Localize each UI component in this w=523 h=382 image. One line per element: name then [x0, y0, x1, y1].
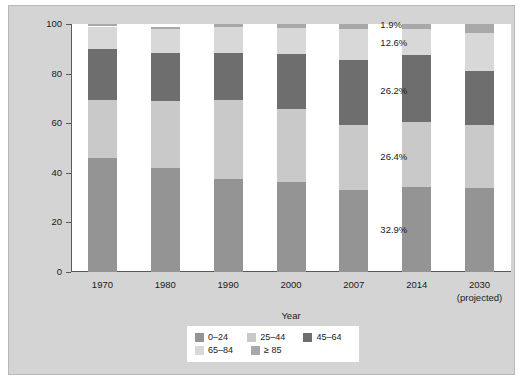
bar-segment-1990-25-44[interactable] — [214, 100, 243, 180]
legend-item-65-84[interactable]: 65–84 — [195, 345, 251, 356]
bar-segment-2007-25-44[interactable] — [339, 125, 368, 190]
bar-segment-1970-0-24[interactable] — [88, 158, 117, 272]
bar-stack — [214, 24, 243, 272]
legend-label-0-24: 0–24 — [208, 332, 228, 343]
x-tick-label-2030: 2030(projected) — [445, 278, 515, 304]
bar-stack — [151, 24, 180, 272]
legend-label-45-64: 45–64 — [316, 332, 341, 343]
bar-segment-1970-25-44[interactable] — [88, 100, 117, 158]
bar-segment-2000-65-84[interactable] — [277, 28, 306, 54]
bar-column-1980[interactable] — [151, 24, 180, 272]
y-tick-label-20: 20 — [51, 215, 62, 228]
x-tick-label-2014: 2014 — [382, 278, 452, 291]
bar-stack — [277, 24, 306, 272]
bar-segment-2030-0-24[interactable] — [465, 188, 494, 272]
chart-legend: 0–24 25–44 45–64 65–84 ≥ 85 — [187, 326, 359, 362]
x-tick-label-1970: 1970 — [67, 278, 137, 291]
annotation-26-2pct: 26.2% — [380, 85, 407, 96]
x-tick-sublabel-2030: (projected) — [445, 291, 515, 304]
bar-segment-1990--85[interactable] — [214, 24, 243, 27]
bar-segment-2007-45-64[interactable] — [339, 60, 368, 125]
bar-stack — [465, 24, 494, 272]
bar-column-1970[interactable] — [88, 24, 117, 272]
bar-column-2000[interactable] — [277, 24, 306, 272]
bar-segment-2000--85[interactable] — [277, 24, 306, 28]
legend-row-2: 65–84 ≥ 85 — [195, 344, 352, 357]
legend-item-25-44[interactable]: 25–44 — [247, 332, 303, 343]
bar-column-1990[interactable] — [214, 24, 243, 272]
bar-segment-2030-45-64[interactable] — [465, 71, 494, 125]
legend-swatch-icon-45-64 — [303, 333, 312, 342]
bar-segment-2030-25-44[interactable] — [465, 125, 494, 187]
annotation-26-4pct: 26.4% — [380, 151, 407, 162]
chart-screenshot: Percentage of total population 020406080… — [0, 0, 523, 382]
bar-segment-2007--85[interactable] — [339, 24, 368, 29]
legend-swatch-icon-65-84 — [195, 346, 204, 355]
y-tick-label-80: 80 — [51, 67, 62, 80]
bar-group — [71, 24, 511, 272]
bar-segment-1980-25-44[interactable] — [151, 101, 180, 168]
bar-segment-1980--85[interactable] — [151, 27, 180, 29]
x-axis-title: Year — [71, 310, 511, 321]
legend-label-65-84: 65–84 — [208, 345, 233, 356]
x-tick-label-1980: 1980 — [130, 278, 200, 291]
chart-plate: Percentage of total population 020406080… — [8, 5, 515, 375]
y-tick-label-100: 100 — [46, 17, 62, 30]
legend-swatch-icon-85-plus — [251, 346, 260, 355]
plot-wrapper: Percentage of total population 020406080… — [71, 24, 511, 272]
annotation-1-9pct: 1.9% — [380, 19, 402, 30]
bar-stack — [339, 24, 368, 272]
y-tick-label-0: 0 — [57, 265, 62, 278]
bar-segment-2007-0-24[interactable] — [339, 190, 368, 272]
legend-item-85-plus[interactable]: ≥ 85 — [251, 345, 311, 356]
y-tick-0: 0 — [66, 272, 71, 273]
legend-row-1: 0–24 25–44 45–64 — [195, 331, 352, 344]
bar-segment-2007-65-84[interactable] — [339, 29, 368, 60]
bar-segment-2000-0-24[interactable] — [277, 182, 306, 272]
legend-label-85-plus: ≥ 85 — [264, 345, 281, 356]
bar-segment-1990-0-24[interactable] — [214, 179, 243, 272]
bar-segment-1990-65-84[interactable] — [214, 27, 243, 53]
bar-segment-2030-65-84[interactable] — [465, 33, 494, 71]
legend-swatch-icon-25-44 — [247, 333, 256, 342]
bar-segment-2030--85[interactable] — [465, 24, 494, 33]
x-tick-label-2007: 2007 — [319, 278, 389, 291]
bar-segment-1980-65-84[interactable] — [151, 29, 180, 53]
legend-swatch-icon-0-24 — [195, 333, 204, 342]
bar-segment-2014--85[interactable] — [402, 24, 431, 29]
bar-column-2030[interactable] — [465, 24, 494, 272]
bar-segment-2000-45-64[interactable] — [277, 54, 306, 109]
plot-area: 020406080100 1.9%12.6%26.2%26.4%32.9% — [71, 24, 511, 272]
legend-item-45-64[interactable]: 45–64 — [303, 332, 352, 343]
y-tick-label-40: 40 — [51, 166, 62, 179]
x-tick-label-1990: 1990 — [193, 278, 263, 291]
x-tick-label-2000: 2000 — [256, 278, 326, 291]
annotation-12-6pct: 12.6% — [380, 37, 407, 48]
legend-label-25-44: 25–44 — [260, 332, 285, 343]
bar-stack — [88, 24, 117, 272]
annotation-32-9pct: 32.9% — [380, 224, 407, 235]
bar-segment-1980-0-24[interactable] — [151, 168, 180, 272]
bar-segment-2000-25-44[interactable] — [277, 109, 306, 182]
bar-column-2007[interactable] — [339, 24, 368, 272]
bar-segment-1970--85[interactable] — [88, 24, 117, 26]
legend-item-0-24[interactable]: 0–24 — [195, 332, 247, 343]
y-tick-label-60: 60 — [51, 116, 62, 129]
bar-segment-1970-45-64[interactable] — [88, 49, 117, 100]
bar-segment-1970-65-84[interactable] — [88, 27, 117, 49]
bar-segment-1990-45-64[interactable] — [214, 53, 243, 99]
bar-segment-1980-45-64[interactable] — [151, 53, 180, 102]
